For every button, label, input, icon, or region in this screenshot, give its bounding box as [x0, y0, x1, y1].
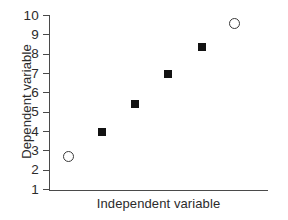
- y-axis-tick: [43, 131, 49, 132]
- plot-area: [0, 0, 288, 220]
- data-point-marker: [198, 43, 206, 51]
- y-axis-tick-label-text: 1: [12, 183, 39, 197]
- y-axis-tick: [43, 92, 49, 93]
- y-axis-tick: [43, 112, 49, 113]
- data-point-marker: [164, 70, 172, 78]
- scatter-plot-figure: 10987654321 Independent variable Depende…: [0, 0, 288, 220]
- y-axis-tick-label: 10: [12, 9, 39, 23]
- y-axis-tick: [43, 73, 49, 74]
- y-axis-tick: [43, 170, 49, 171]
- data-point-marker: [98, 128, 106, 136]
- y-axis-tick: [43, 189, 49, 190]
- data-point-marker: [131, 100, 139, 108]
- y-axis-tick: [43, 54, 49, 55]
- y-axis-tick: [43, 150, 49, 151]
- y-axis-tick: [43, 34, 49, 35]
- y-axis-tick-label: 1: [12, 183, 39, 197]
- x-axis-line: [49, 190, 268, 191]
- y-axis-title: Dependent variable: [19, 22, 34, 182]
- data-point-marker: [63, 151, 74, 162]
- y-axis-tick-label-text: 10: [12, 9, 39, 23]
- y-axis-tick: [43, 15, 49, 16]
- x-axis-title: Independent variable: [49, 196, 268, 211]
- y-axis-line: [49, 15, 50, 191]
- data-point-marker: [229, 18, 240, 29]
